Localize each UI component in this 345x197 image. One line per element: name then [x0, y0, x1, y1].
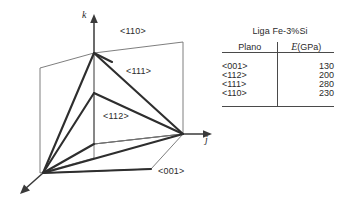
crystal-direction-diagram: k j <110> <111> <112> <001> [0, 0, 215, 197]
modulus-unit: (GPa) [297, 42, 321, 52]
direction-label-112: <112> [103, 111, 129, 121]
cell-plane: <110> [222, 89, 278, 107]
cell-modulus: 230 [278, 89, 334, 107]
table-body: <001> 130 <112> 200 <111> 280 <110> 230 [222, 53, 334, 107]
k-axis-arrowhead [90, 14, 98, 23]
direction-label-110: <110> [120, 26, 146, 36]
axis-lines [25, 20, 206, 189]
table-title: Liga Fe-3%Si [222, 26, 338, 42]
table-row: <110> 230 [222, 89, 334, 107]
vector-to-cube-center [43, 144, 94, 173]
table-row: <001> 130 [222, 53, 334, 72]
vector-to-bottom-front [43, 169, 151, 173]
column-header-modulus: E(GPa) [278, 42, 334, 53]
cell-modulus: 130 [278, 53, 334, 72]
modulus-table: Plano E(GPa) <001> 130 <112> 200 <111> 2… [222, 42, 334, 107]
table-head: Plano E(GPa) [222, 42, 334, 53]
i-axis-line [25, 173, 43, 189]
j-axis-label: j [205, 134, 208, 145]
direction-label-001: <001> [158, 166, 185, 176]
figure-page: k j <110> <111> <112> <001> Liga Fe-3%Si… [0, 0, 345, 197]
k-axis-label: k [82, 9, 86, 20]
column-header-plano: Plano [222, 42, 278, 53]
table-header-row: Plano E(GPa) [222, 42, 334, 53]
vector-to-apex [43, 53, 94, 173]
cell-plane: <001> [222, 53, 278, 72]
direction-label-111: <111> [126, 66, 151, 76]
modulus-table-panel: Liga Fe-3%Si Plano E(GPa) <001> 130 <112… [222, 26, 338, 107]
